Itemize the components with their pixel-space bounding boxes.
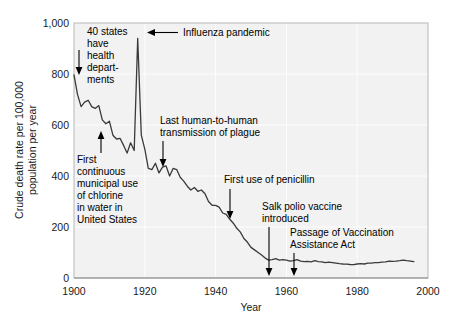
infectious-disease-mortality-chart: 1,000 800 600 400 200 0 1900 1920 1940 1… <box>0 0 459 331</box>
annotation-health-departments-line4: depart- <box>87 62 119 73</box>
x-tick-label-1980: 1980 <box>346 285 370 297</box>
y-tick-label-400: 400 <box>51 170 69 182</box>
annotation-salk-polio-vaccine-line2: introduced <box>262 213 309 224</box>
chart-canvas: 1,000 800 600 400 200 0 1900 1920 1940 1… <box>0 0 459 331</box>
annotation-plague-transmission-line1: Last human-to-human <box>160 115 258 126</box>
annotation-influenza-pandemic-label: Influenza pandemic <box>183 27 270 38</box>
y-axis-title-line1: Crude death rate per 100,000 <box>13 81 25 219</box>
annotation-salk-polio-vaccine-line1: Salk polio vaccine <box>262 201 342 212</box>
x-tick-label-2000: 2000 <box>416 285 440 297</box>
y-tick-label-200: 200 <box>51 221 69 233</box>
annotation-chlorine-water-line3: municipal use <box>77 178 139 189</box>
x-tick-label-1920: 1920 <box>133 285 157 297</box>
annotation-health-departments-line3: health <box>87 50 114 61</box>
annotation-plague-transmission-line2: transmission of plague <box>160 127 260 138</box>
annotation-vaccination-assistance-act-line1: Passage of Vaccination <box>290 227 394 238</box>
x-tick-label-1940: 1940 <box>204 285 228 297</box>
y-tick-label-600: 600 <box>51 119 69 131</box>
annotation-chlorine-water-line1: First <box>77 154 97 165</box>
annotation-chlorine-water-line4: of chlorine <box>77 190 124 201</box>
annotation-health-departments-line1: 40 states <box>87 26 128 37</box>
annotation-chlorine-water-line5: in water in <box>77 202 123 213</box>
annotation-chlorine-water-line6: United States <box>77 214 137 225</box>
y-axis-title-line2: population per year <box>26 105 38 195</box>
annotation-health-departments-line2: have <box>87 38 109 49</box>
x-axis-title: Year <box>240 301 262 313</box>
y-tick-label-800: 800 <box>51 68 69 80</box>
annotation-health-departments-line5: ments <box>87 74 114 85</box>
plot-area-background <box>74 23 428 278</box>
annotation-chlorine-water-line2: continuous <box>77 166 125 177</box>
annotation-penicillin-label: First use of penicillin <box>224 174 315 185</box>
y-tick-label-0: 0 <box>63 272 69 284</box>
x-tick-label-1960: 1960 <box>275 285 299 297</box>
y-tick-label-1000: 1,000 <box>43 17 69 29</box>
annotation-vaccination-assistance-act-line2: Assistance Act <box>290 239 355 250</box>
x-tick-label-1900: 1900 <box>62 285 86 297</box>
